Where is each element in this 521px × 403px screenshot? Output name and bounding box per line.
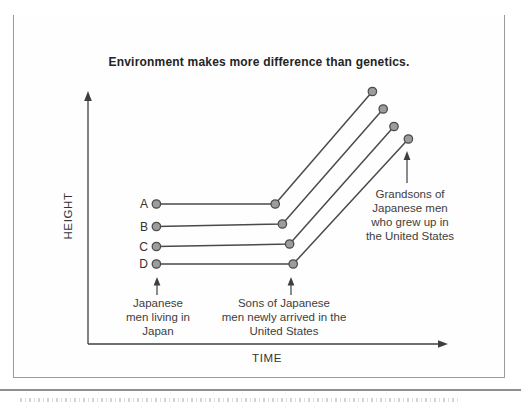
data-point-B <box>152 222 160 230</box>
series-label-A: A <box>140 197 148 211</box>
annotation-arrowhead-japan-icon <box>154 277 161 286</box>
data-point-A <box>271 200 279 208</box>
cut-off-caption-remnant <box>20 398 460 402</box>
y-axis-arrowhead-icon <box>84 91 92 101</box>
data-point-C <box>152 242 160 250</box>
y-axis-label: HEIGHT <box>62 166 74 266</box>
data-point-D <box>404 135 412 143</box>
annotation-grandsons: Grandsons of Japanese men who grew up in… <box>340 187 480 243</box>
page-divider-rule <box>0 389 521 391</box>
data-point-B <box>379 105 387 113</box>
series-layer: ABCD <box>139 87 412 271</box>
annotation-arrowhead-sons-icon <box>288 277 295 286</box>
data-point-D <box>289 260 297 268</box>
data-point-D <box>152 260 160 268</box>
figure-page: Figure 2.1 Japanese Heritability ABCD En… <box>0 0 521 403</box>
x-axis-arrowhead-icon <box>438 340 448 348</box>
series-label-C: C <box>139 240 148 254</box>
annotation-sons: Sons of Japanese men newly arrived in th… <box>204 296 364 338</box>
annotation-japan: Japanese men living in Japan <box>98 296 218 338</box>
data-point-A <box>368 87 376 95</box>
data-point-B <box>278 220 286 228</box>
data-point-A <box>152 200 160 208</box>
data-point-C <box>285 240 293 248</box>
annotation-arrowhead-grandsons-icon <box>404 151 411 160</box>
chart-title: Environment makes more difference than g… <box>13 55 505 69</box>
series-label-D: D <box>139 257 148 271</box>
data-point-C <box>390 122 398 130</box>
x-axis-label: TIME <box>217 352 317 364</box>
series-label-B: B <box>140 220 148 234</box>
